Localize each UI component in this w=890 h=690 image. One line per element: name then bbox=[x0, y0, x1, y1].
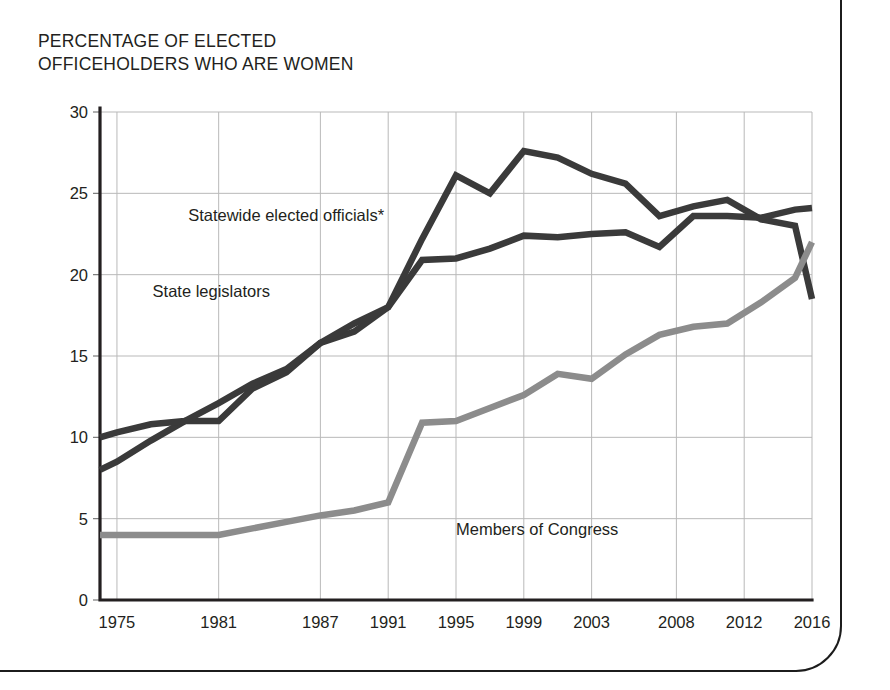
y-tick-label: 10 bbox=[70, 428, 88, 446]
x-tick-label: 1999 bbox=[505, 613, 542, 631]
x-tick-label: 1981 bbox=[200, 613, 237, 631]
y-tick-label: 15 bbox=[70, 347, 88, 365]
y-tick-label: 0 bbox=[79, 591, 88, 609]
x-tick-label: 1975 bbox=[99, 613, 136, 631]
x-tick-label: 1987 bbox=[302, 613, 339, 631]
series-label-1: State legislators bbox=[153, 282, 270, 300]
line-chart-svg: 051015202530 197519811987199119951999200… bbox=[0, 0, 890, 690]
y-tick-label: 30 bbox=[70, 103, 88, 121]
x-tick-label: 1991 bbox=[370, 613, 407, 631]
y-axis-tick-labels: 051015202530 bbox=[70, 103, 88, 609]
x-tick-label: 2003 bbox=[573, 613, 610, 631]
y-tick-label: 20 bbox=[70, 266, 88, 284]
x-tick-label: 2016 bbox=[794, 613, 831, 631]
series-label-annotations: Statewide elected officials*State legisl… bbox=[153, 206, 619, 538]
chart-page: PERCENTAGE OF ELECTED OFFICEHOLDERS WHO … bbox=[0, 0, 890, 690]
x-tick-label: 2008 bbox=[658, 613, 695, 631]
series-label-0: Statewide elected officials* bbox=[188, 206, 385, 224]
series-label-2: Members of Congress bbox=[456, 520, 618, 538]
x-tick-label: 1995 bbox=[438, 613, 475, 631]
x-axis-tick-labels: 1975198119871991199519992003200820122016 bbox=[99, 613, 831, 631]
x-tick-label: 2012 bbox=[726, 613, 763, 631]
y-tick-label: 5 bbox=[79, 510, 88, 528]
chart-plot-area: 051015202530 197519811987199119951999200… bbox=[0, 0, 890, 690]
y-tick-label: 25 bbox=[70, 184, 88, 202]
